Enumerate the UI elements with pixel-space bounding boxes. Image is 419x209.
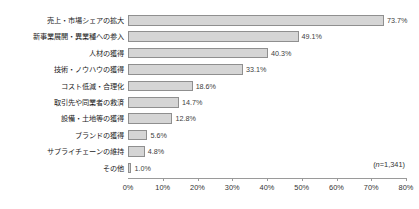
x-axis-tick	[232, 178, 233, 181]
x-axis-tick-label: 70%	[364, 183, 379, 192]
category-label: コスト低減・合理化	[61, 81, 124, 92]
category-label: 設備・土地等の獲得	[61, 113, 124, 124]
plot-area: 売上・市場シェアの拡大73.7%新事業展開・異業種への参入49.1%人材の獲得4…	[128, 14, 406, 178]
x-axis-tick	[302, 178, 303, 181]
sample-size-annotation: (n=1,341)	[373, 160, 405, 169]
bar	[128, 48, 268, 59]
bar-value-label: 33.1%	[243, 64, 266, 75]
bar-value-label: 18.6%	[193, 81, 216, 92]
bar-row: 設備・土地等の獲得12.8%	[128, 112, 406, 126]
x-axis-tick-label: 10%	[155, 183, 170, 192]
bar	[128, 113, 172, 124]
bar-chart: 売上・市場シェアの拡大73.7%新事業展開・異業種への参入49.1%人材の獲得4…	[0, 0, 419, 209]
category-label: サプライチェーンの維持	[47, 146, 124, 157]
bar	[128, 130, 147, 141]
x-axis-tick	[371, 178, 372, 181]
x-axis-tick-label: 50%	[294, 183, 309, 192]
bar	[128, 64, 243, 75]
bar	[128, 31, 299, 42]
category-label: 取引先や同業者の救済	[54, 97, 124, 108]
bar-row: ブランドの獲得5.6%	[128, 129, 406, 143]
category-label: 技術・ノウハウの獲得	[54, 64, 124, 75]
category-label: 人材の獲得	[89, 48, 124, 59]
x-axis-tick-label: 20%	[190, 183, 205, 192]
bar-value-label: 40.3%	[268, 48, 291, 59]
chart-title-sliver	[0, 0, 419, 7]
category-label: ブランドの獲得	[75, 130, 124, 141]
bar	[128, 146, 145, 157]
category-label: 売上・市場シェアの拡大	[47, 15, 124, 26]
bar-row: 人材の獲得40.3%	[128, 47, 406, 61]
x-axis-tick	[163, 178, 164, 181]
bar-value-label: 1.0%	[131, 163, 150, 174]
bar-row: 取引先や同業者の救済14.7%	[128, 96, 406, 110]
x-axis-tick-label: 80%	[399, 183, 414, 192]
x-axis-tick-label: 40%	[260, 183, 275, 192]
bar	[128, 81, 193, 92]
bar-value-label: 49.1%	[299, 31, 322, 42]
bar-row: 売上・市場シェアの拡大73.7%	[128, 14, 406, 28]
x-axis-tick-label: 0%	[123, 183, 134, 192]
bar-value-label: 14.7%	[179, 97, 202, 108]
category-label: その他	[103, 163, 124, 174]
bar	[128, 97, 179, 108]
bar-row: その他1.0%	[128, 162, 406, 176]
x-axis-tick	[198, 178, 199, 181]
category-label: 新事業展開・異業種への参入	[33, 31, 124, 42]
bar-row: 技術・ノウハウの獲得33.1%	[128, 63, 406, 77]
annotation-suffix: =1,341)	[380, 160, 405, 169]
bar-row: コスト低減・合理化18.6%	[128, 80, 406, 94]
bar	[128, 15, 384, 26]
bar-value-label: 73.7%	[384, 15, 407, 26]
bar-value-label: 4.8%	[145, 146, 164, 157]
x-axis-tick-label: 30%	[225, 183, 240, 192]
bar-row: 新事業展開・異業種への参入49.1%	[128, 30, 406, 44]
bar-row: サプライチェーンの維持4.8%	[128, 145, 406, 159]
bar-value-label: 12.8%	[172, 113, 195, 124]
x-axis-tick	[337, 178, 338, 181]
x-axis-tick-label: 60%	[329, 183, 344, 192]
x-axis-tick	[267, 178, 268, 181]
x-axis-tick	[406, 178, 407, 181]
bar-value-label: 5.6%	[147, 130, 166, 141]
